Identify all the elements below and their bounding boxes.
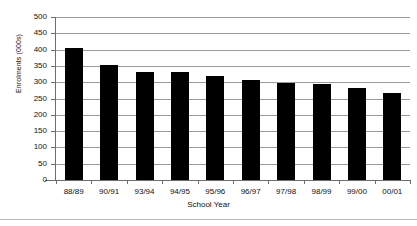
y-axis-tick-label: 100 (0, 143, 47, 151)
bar (277, 83, 295, 180)
gridline (56, 50, 410, 51)
x-axis-tick (375, 180, 376, 184)
bar (136, 72, 154, 180)
x-axis-tick (233, 180, 234, 184)
y-axis-tick-label: 0 (0, 176, 47, 184)
x-axis-line (45, 180, 411, 181)
bar (100, 65, 118, 180)
bar (171, 72, 189, 180)
y-axis-tick-label: 200 (0, 111, 47, 119)
y-axis-tick-label: 350 (0, 62, 47, 70)
x-axis-tick (410, 180, 411, 184)
x-axis-tick-label: 00/01 (369, 187, 415, 196)
y-axis-tick-label: 300 (0, 78, 47, 86)
x-axis-title: School Year (0, 200, 417, 209)
x-axis-tick (91, 180, 92, 184)
y-axis-tick-label: 150 (0, 127, 47, 135)
gridline (56, 33, 410, 34)
footer-divider (0, 219, 417, 220)
bar (313, 84, 331, 180)
x-axis-tick (304, 180, 305, 184)
bar (348, 88, 366, 180)
x-axis-tick (127, 180, 128, 184)
y-axis-tick-label: 400 (0, 46, 47, 54)
bar (65, 48, 83, 180)
x-axis-tick (162, 180, 163, 184)
x-axis-tick (56, 180, 57, 184)
plot-area (56, 17, 410, 180)
y-axis-tick-label: 250 (0, 95, 47, 103)
y-axis-tick-label: 500 (0, 13, 47, 21)
gridline (56, 17, 410, 18)
x-axis-tick (339, 180, 340, 184)
bar (383, 93, 401, 180)
bar-chart: Enrolments (000s) 5004504003503002502001… (0, 0, 417, 226)
y-axis-tick-label: 50 (0, 160, 47, 168)
y-axis-tick-label: 450 (0, 29, 47, 37)
bar (242, 80, 260, 180)
bar (206, 76, 224, 180)
x-axis-tick (268, 180, 269, 184)
x-axis-tick (198, 180, 199, 184)
